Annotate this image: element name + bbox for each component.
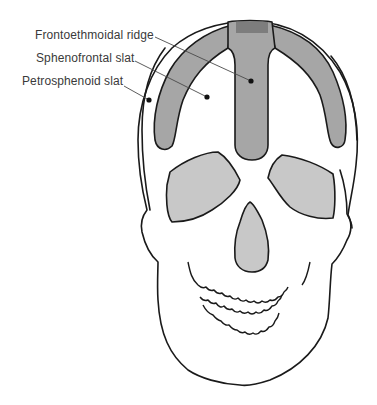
ridge-cap [236,22,268,33]
label-sphenofrontal-slat: Sphenofrontal slat [36,51,135,65]
frontoethmoidal-ridge [228,21,275,161]
marker-sphenofrontal [204,94,209,99]
marker-petrosphenoid [146,97,151,102]
skull-diagram: Frontoethmoidal ridge Sphenofrontal slat… [0,0,377,405]
label-petrosphenoid-slat: Petrosphenoid slat [22,74,123,88]
label-frontoethmoidal-ridge: Frontoethmoidal ridge [35,28,154,42]
marker-frontoethmoidal [248,78,253,83]
